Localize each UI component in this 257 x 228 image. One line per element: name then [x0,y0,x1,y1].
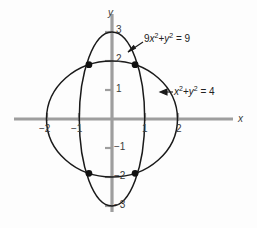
x-tick-label-neg2: −2 [39,124,50,134]
intersection-dot [86,61,93,68]
graph-figure: y x 3 2 1 −1 −2 −3 −2 −1 1 2 9x2+y2 = 9 … [0,0,257,228]
circle-equation-label: x2+y2 = 4 [174,85,215,97]
y-tick-label-1: 1 [116,84,122,94]
ellipse-eq-rhs: = 9 [176,33,190,44]
x-tick-label-neg1: −1 [71,124,82,134]
circle-eq-exp-y: 2 [194,85,198,92]
intersection-dot [132,61,139,68]
x-tick-label-1: 1 [142,124,148,134]
intersection-dot [132,170,139,177]
y-tick-label-neg3: −3 [114,200,125,210]
x-axis-label: x [238,114,243,124]
y-tick-label-neg2: −2 [114,171,125,181]
ellipse-eq-exp-y: 2 [169,32,173,39]
y-tick-label-2: 2 [116,54,122,64]
coordinate-plot [0,0,257,228]
x-tick-label-2: 2 [176,124,182,134]
y-tick-label-3: 3 [116,25,122,35]
y-axis-label: y [108,8,113,18]
ellipse-equation-label: 9x2+y2 = 9 [144,32,190,44]
circle-eq-rhs: = 4 [200,86,214,97]
intersection-dot [86,170,93,177]
y-tick-label-neg1: −1 [114,142,125,152]
